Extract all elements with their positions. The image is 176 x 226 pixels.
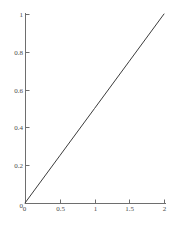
x-tick-label: 0.5 (56, 206, 65, 213)
x-tick-label: 2 (163, 206, 167, 213)
y-tick-label: 0.2 (14, 162, 23, 169)
plot-canvas (0, 0, 176, 226)
y-tick-label: 0.4 (14, 124, 23, 131)
x-tick-label: 1.5 (125, 206, 134, 213)
y-tick-label: 0.8 (14, 49, 23, 56)
line-plot-figure: 00.511.52 00.20.40.60.81 (0, 0, 176, 226)
x-tick-label: 1 (94, 206, 98, 213)
y-tick-label: 0 (20, 202, 24, 209)
y-tick-label: 1 (20, 11, 24, 18)
y-tick-label: 0.6 (14, 87, 23, 94)
